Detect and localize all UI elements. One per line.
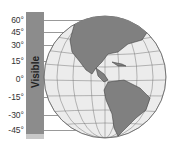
globe <box>0 0 175 145</box>
